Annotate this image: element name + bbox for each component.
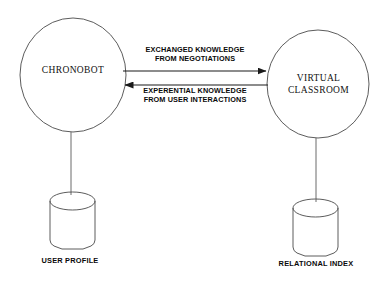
node-chronobot-ellipse[interactable] [20, 18, 126, 132]
node-virtual-classroom-ellipse[interactable] [267, 30, 369, 138]
datastore-relational-index-label: RELATIONAL INDEX [264, 259, 368, 268]
edge-experential-knowledge-label: EXPERENTIAL KNOWLEDGE FROM USER INTERACT… [128, 86, 262, 104]
diagram-canvas: CHRONOBOT VIRTUAL CLASSROOM EXCHANGED KN… [0, 0, 385, 284]
diagram-graphics [0, 0, 385, 284]
datastore-user-profile-label: USER PROFILE [22, 256, 118, 265]
datastore-user-profile-cylinder[interactable] [50, 192, 95, 249]
datastore-relational-index-cylinder[interactable] [293, 199, 338, 256]
edge-exchanged-knowledge-label: EXCHANGED KNOWLEDGE FROM NEGOTIATIONS [128, 45, 262, 63]
